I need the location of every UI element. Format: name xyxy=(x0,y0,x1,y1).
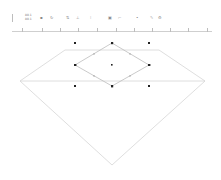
drawing-canvas[interactable] xyxy=(0,0,221,180)
diamond-shape xyxy=(20,50,205,165)
selection-handles xyxy=(74,42,150,87)
